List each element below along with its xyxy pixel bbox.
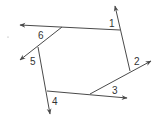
angle-label-6: 6 <box>38 30 44 41</box>
angle-label-1: 1 <box>109 18 115 29</box>
ray-left-down <box>38 47 50 114</box>
ray-right-lower <box>90 61 151 94</box>
angle-label-4: 4 <box>52 96 58 107</box>
angle-label-5: 5 <box>30 56 36 67</box>
stray-dot <box>7 36 8 37</box>
ray-top <box>20 25 120 30</box>
ray-right-up <box>115 6 130 71</box>
hexagon-diagram: 1 2 3 4 5 6 <box>0 0 167 123</box>
angle-label-3: 3 <box>112 85 118 96</box>
angle-label-2: 2 <box>134 56 140 67</box>
